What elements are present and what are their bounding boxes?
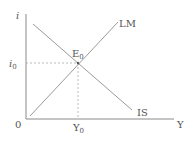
i0-label: i0 (9, 58, 17, 71)
equilibrium-point (77, 62, 79, 64)
y-axis-label: i (16, 10, 19, 21)
is-label: IS (137, 107, 148, 118)
lm-label: LM (119, 18, 136, 29)
origin-label: 0 (15, 119, 21, 130)
is-lm-diagram: i i0 E0 LM IS 0 Y0 Y (0, 0, 193, 141)
lm-curve (30, 22, 118, 116)
y0-label: Y0 (72, 122, 84, 135)
x-axis-label: Y (176, 119, 184, 130)
